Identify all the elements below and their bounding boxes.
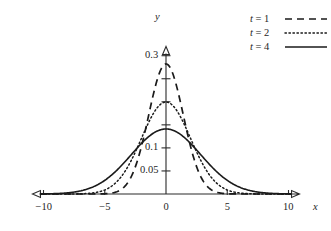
y-tick-label: 0.05 — [140, 165, 158, 176]
legend-swatch-dashed — [284, 13, 328, 25]
y-axis-line — [163, 46, 170, 194]
chart-legend: t = 1t = 2t = 4 — [250, 13, 328, 55]
legend-label: t = 2 — [250, 27, 269, 39]
x-axis-label: x — [313, 202, 318, 213]
legend-label: t = 1 — [250, 13, 269, 25]
x-tick-label: 0 — [164, 202, 169, 213]
y-axis-label: y — [155, 12, 160, 23]
legend-entry-t-2: t = 2 — [250, 27, 328, 39]
x-tick-label: 10 — [283, 202, 294, 213]
heat-kernel-chart: −10−505100.050.10.3 x y t = 1t = 2t = 4 — [0, 0, 331, 231]
axes-group — [32, 46, 299, 197]
x-tick-label: −5 — [99, 202, 110, 213]
y-tick-label: 0.3 — [145, 50, 158, 61]
legend-label: t = 4 — [250, 41, 269, 53]
x-tick-label: 5 — [225, 202, 230, 213]
y-tick-label: 0.1 — [145, 142, 158, 153]
legend-entry-t-1: t = 1 — [250, 13, 328, 25]
legend-swatch-dotted — [284, 27, 328, 39]
x-tick-label: −10 — [36, 202, 52, 213]
legend-entry-t-4: t = 4 — [250, 41, 328, 53]
legend-swatch-solid — [284, 41, 328, 53]
